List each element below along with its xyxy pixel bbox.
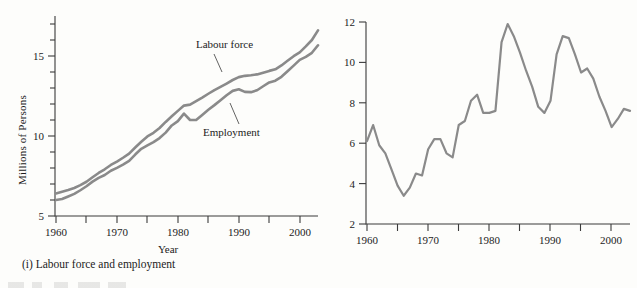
x-tick-label-2000: 2000 — [600, 234, 623, 246]
x-tick-label-2000: 2000 — [289, 226, 312, 238]
x-ticks — [56, 216, 300, 223]
x-tick-label-1960: 1960 — [356, 234, 379, 246]
y-tick-label-10: 10 — [33, 130, 45, 142]
y-tick-label-6: 6 — [350, 137, 356, 149]
y-ticks — [359, 22, 366, 224]
y-minor-ticks — [50, 24, 55, 200]
annotation-labour-force: Labour force — [196, 38, 253, 50]
x-tick-label-1960: 1960 — [45, 226, 68, 238]
x-axis-label-left: Year — [158, 243, 178, 255]
figure-page: 15 10 5 1960 1970 1980 1990 2000 — [0, 0, 637, 288]
series-line-unemployment — [367, 24, 630, 196]
x-tick-label-1980: 1980 — [167, 226, 190, 238]
y-tick-label-12: 12 — [344, 16, 355, 28]
unemployment-plot: 12 10 8 6 4 2 1960 1970 1980 1990 20 — [318, 0, 637, 288]
leader-employment — [230, 103, 239, 124]
chart-panel-unemployment: 12 10 8 6 4 2 1960 1970 1980 1990 20 — [318, 0, 637, 288]
cut-off-body-text — [8, 282, 208, 288]
y-tick-label-4: 4 — [350, 178, 356, 190]
y-tick-label-5: 5 — [39, 210, 45, 222]
chart-panel-labour-force: 15 10 5 1960 1970 1980 1990 2000 — [0, 0, 320, 288]
panel-caption-left: (i) Labour force and employment — [22, 258, 175, 270]
x-tick-label-1990: 1990 — [539, 234, 562, 246]
annotation-employment: Employment — [203, 126, 260, 138]
x-tick-label-1970: 1970 — [417, 234, 440, 246]
leader-labour-force — [214, 54, 222, 72]
y-tick-label-10: 10 — [344, 56, 356, 68]
y-major-ticks — [48, 56, 55, 216]
y-tick-label-15: 15 — [33, 50, 45, 62]
x-tick-label-1990: 1990 — [228, 226, 251, 238]
x-ticks — [367, 224, 611, 231]
y-axis-label-left: Millions of Persons — [16, 95, 28, 185]
series-line-labour-force — [56, 30, 318, 193]
x-tick-label-1970: 1970 — [106, 226, 129, 238]
y-tick-label-2: 2 — [350, 218, 356, 230]
y-tick-label-8: 8 — [350, 97, 356, 109]
x-tick-label-1980: 1980 — [478, 234, 501, 246]
